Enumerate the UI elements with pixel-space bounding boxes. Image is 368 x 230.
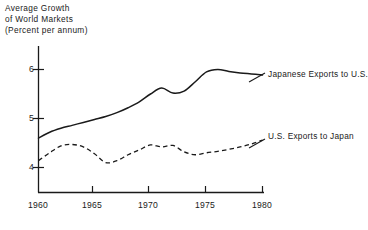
- leader-line-us-exports: [249, 139, 265, 148]
- series-line-us-exports: [39, 140, 263, 163]
- series-line-japanese-exports: [39, 69, 263, 138]
